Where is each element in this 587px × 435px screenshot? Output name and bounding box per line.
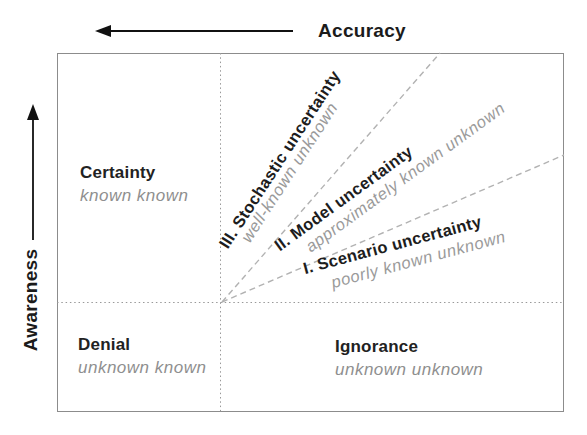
- quadrant-denial: Denial unknown known: [78, 335, 206, 378]
- uncertainty-diagram: Accuracy Awareness Certainty known known…: [0, 0, 587, 435]
- certainty-subtitle: known known: [80, 186, 189, 206]
- quadrant-certainty: Certainty known known: [80, 163, 189, 206]
- ignorance-title: Ignorance: [335, 337, 483, 357]
- certainty-title: Certainty: [80, 163, 189, 183]
- quadrant-ignorance: Ignorance unknown unknown: [335, 337, 483, 380]
- x-axis-label: Accuracy: [318, 20, 406, 42]
- denial-subtitle: unknown known: [78, 358, 206, 378]
- arrow-left-icon: [95, 25, 293, 37]
- y-axis-label: Awareness: [20, 245, 42, 355]
- ignorance-subtitle: unknown unknown: [335, 360, 483, 380]
- arrow-up-icon: [27, 104, 39, 240]
- denial-title: Denial: [78, 335, 206, 355]
